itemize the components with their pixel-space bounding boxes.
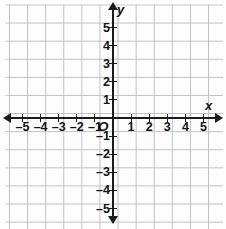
y-axis-down-arrow-icon [108,216,118,224]
x-axis-tick-label: –5 [16,121,30,134]
x-axis-tick-label: 4 [182,121,189,134]
y-axis-line [112,8,114,219]
y-axis-tick [109,136,117,137]
y-axis-tick [109,81,117,82]
x-axis-label: x [205,99,212,112]
coordinate-plane-figure: –5–4–3–2–112345 54321–1–2–3–4–5 O y x [0,0,226,229]
y-axis-tick-label: –4 [96,184,110,197]
y-axis-tick [109,172,117,173]
y-axis-tick [109,99,117,100]
y-axis-tick [109,63,117,64]
x-axis-right-arrow-icon [215,113,223,123]
y-axis-tick-label: –2 [96,148,110,161]
y-axis-tick [109,190,117,191]
x-axis-tick-label: 3 [164,121,171,134]
y-axis-tick-label: 3 [103,57,110,70]
y-axis-tick-label: –3 [96,166,110,179]
y-axis-tick [109,27,117,28]
x-axis-tick-label: –2 [70,121,84,134]
x-axis-tick-label: –4 [34,121,48,134]
x-axis-tick-label: 1 [128,121,135,134]
y-axis-tick-label: 5 [103,21,110,34]
x-axis-left-arrow-icon [3,113,11,123]
x-axis-tick-label: –3 [52,121,66,134]
x-axis-tick-label: 5 [200,121,207,134]
y-axis-label: y [117,3,124,16]
y-axis-tick-label: 1 [103,94,110,107]
x-axis-tick-label: 2 [146,121,153,134]
y-axis-tick-label: –5 [96,202,110,215]
y-axis-tick [109,154,117,155]
y-axis-tick [109,208,117,209]
origin-label: O [98,120,109,134]
y-axis-tick-label: 2 [103,76,110,89]
y-axis-tick [109,45,117,46]
y-axis-tick-label: 4 [103,39,110,52]
